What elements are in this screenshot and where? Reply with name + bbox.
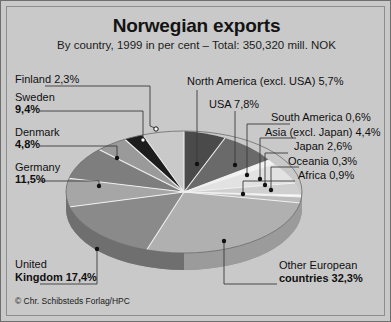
label-sweden-value: 9,4% xyxy=(15,103,40,116)
label-sweden-name: Sweden xyxy=(15,91,55,104)
chart-frame: Norwegian exports By country, 1999 in pe… xyxy=(0,0,391,322)
label-other-european-value: countries 32,3% xyxy=(279,272,363,285)
label-usa: USA 7,8% xyxy=(209,98,259,111)
label-africa: Africa 0,9% xyxy=(298,169,354,182)
label-germany-value: 11,5% xyxy=(15,173,46,186)
label-oceania: Oceania 0,3% xyxy=(288,155,357,168)
label-germany-name: Germany xyxy=(15,161,60,174)
label-denmark-value: 4,8% xyxy=(15,138,40,151)
label-denmark-name: Denmark xyxy=(15,126,60,139)
chart-inner-border: Norwegian exports By country, 1999 in pe… xyxy=(6,6,385,316)
label-asia: Asia (excl. Japan) 4,4% xyxy=(265,126,381,139)
label-japan: Japan 2,6% xyxy=(294,140,352,153)
label-other-european-name: Other European xyxy=(279,259,357,272)
label-south-america: South America 0,6% xyxy=(271,111,371,124)
label-finland: Finland 2,3% xyxy=(15,73,79,86)
label-north-america: North America (excl. USA) 5,7% xyxy=(187,75,344,88)
label-uk-name: United xyxy=(15,258,47,271)
label-uk-value: Kingdom 17,4% xyxy=(15,271,97,284)
copyright-credit: © Chr. Schibsteds Forlag/HPC xyxy=(15,296,130,306)
